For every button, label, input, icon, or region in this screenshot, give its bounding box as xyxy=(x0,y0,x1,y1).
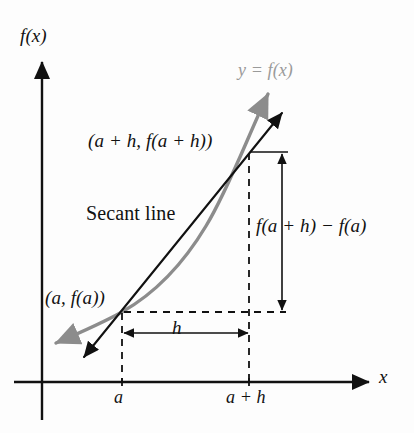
rise-label: f(a + h) − f(a) xyxy=(256,216,367,235)
run-label: h xyxy=(172,318,182,337)
point-a-plus-h-label: (a + h, f(a + h)) xyxy=(88,131,212,150)
x-tick-label-a: a xyxy=(114,388,123,406)
y-axis-label: f(x) xyxy=(20,26,47,45)
point-a-label: (a, f(a)) xyxy=(45,288,105,307)
x-axis-label: x xyxy=(379,367,388,386)
secant-line-label: Secant line xyxy=(86,203,175,223)
x-tick-label-a-plus-h: a + h xyxy=(226,388,266,406)
figure-canvas: f(x) x y = f(x) (a + h, f(a + h)) Secant… xyxy=(0,0,414,433)
curve-equation-label: y = f(x) xyxy=(238,61,293,79)
